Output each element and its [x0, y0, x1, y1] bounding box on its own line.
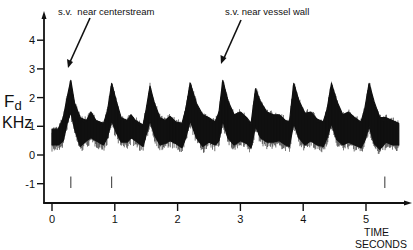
annotation-arrow-vessel-wall — [224, 20, 241, 58]
x-axis-label-line2: SECONDS — [355, 238, 407, 250]
x-tick-label: 0 — [49, 213, 55, 225]
x-ticks: 012345 — [49, 203, 369, 225]
x-tick-label: 3 — [237, 213, 243, 225]
y-tick-label: -1 — [25, 178, 35, 190]
event-markers — [71, 177, 385, 188]
y-axis-arrow-icon — [42, 11, 47, 19]
y-ticks: 43210-1 — [25, 34, 44, 190]
y-tick-label: 0 — [29, 149, 35, 161]
doppler-chart: 43210-1 012345 Fd KHz TIME SECONDS s.v. … — [0, 0, 413, 250]
annotation-vessel-wall: s.v. near vessel wall — [225, 6, 309, 17]
y-tick-label: 4 — [29, 34, 35, 46]
annotation-centerstream: s.v. near centerstream — [58, 6, 155, 17]
x-axis-label-line1: TIME — [364, 226, 389, 238]
y-label-sub: d — [14, 98, 21, 113]
doppler-trace — [52, 80, 399, 153]
y-tick-label: 3 — [29, 63, 35, 75]
x-tick-label: 1 — [112, 213, 118, 225]
x-tick-label: 2 — [175, 213, 181, 225]
y-axis-label: Fd — [4, 92, 22, 113]
x-tick-label: 5 — [363, 213, 369, 225]
x-axis-arrow-icon — [404, 201, 412, 206]
y-tick-label: 2 — [29, 92, 35, 104]
y-axis-unit: KHz — [2, 114, 32, 131]
x-tick-label: 4 — [300, 213, 306, 225]
y-label-main: F — [4, 92, 14, 111]
annotation-arrow-centerstream — [70, 18, 90, 62]
